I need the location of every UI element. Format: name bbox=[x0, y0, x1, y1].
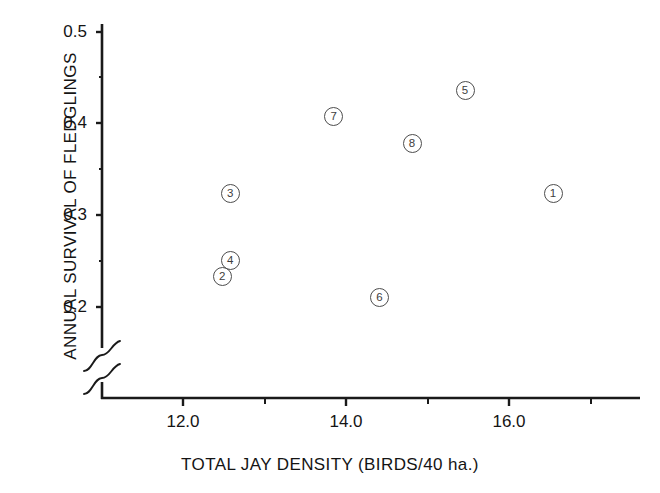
data-point-7: 7 bbox=[324, 107, 343, 126]
data-point-5: 5 bbox=[456, 81, 475, 100]
data-point-8: 8 bbox=[403, 134, 422, 153]
scatter-plot-figure: 0.5 0.4 0.3 0.2 12.0 14.0 16.0 ANNUAL SU… bbox=[0, 0, 660, 493]
plot-area: 12345678 bbox=[0, 0, 660, 493]
data-point-4: 4 bbox=[221, 251, 240, 270]
data-point-1: 1 bbox=[544, 184, 563, 203]
data-point-6: 6 bbox=[370, 288, 389, 307]
data-point-3: 3 bbox=[221, 184, 240, 203]
data-point-2: 2 bbox=[213, 267, 232, 286]
